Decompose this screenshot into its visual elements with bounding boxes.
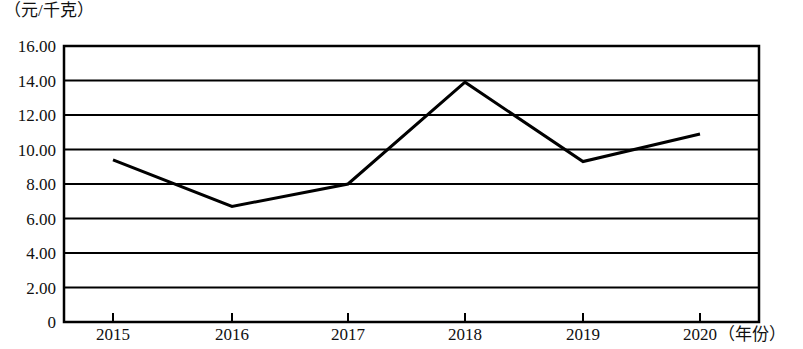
data-series-line [113,82,700,206]
y-axis-tick-label: 2.00 [0,280,56,297]
y-axis-tick-label: 12.00 [0,107,56,124]
x-axis-tick-label: 2019 [566,326,600,343]
x-axis-tick-label: 2017 [331,326,365,343]
y-axis-tick-label: 6.00 [0,211,56,228]
y-axis-tick-label: 4.00 [0,245,56,262]
line-chart: （元/千克） 02.004.006.008.0010.0012.0014.001… [0,0,803,349]
x-axis-tick-label: 2015 [96,326,130,343]
y-axis-tick-label: 14.00 [0,73,56,90]
gridlines [64,81,759,288]
y-axis-tick-label: 10.00 [0,142,56,159]
x-axis-tick-label: 2016 [215,326,249,343]
y-axis-tick-label: 8.00 [0,176,56,193]
plot-area [0,0,803,349]
y-axis-tick-label: 16.00 [0,38,56,55]
x-axis-tick-label: 2018 [448,326,482,343]
x-axis-ticks [113,313,700,322]
x-axis-unit-label: （年份） [718,326,786,343]
x-axis-tick-label: 2020 [683,326,717,343]
y-axis-tick-label: 0 [0,314,56,331]
